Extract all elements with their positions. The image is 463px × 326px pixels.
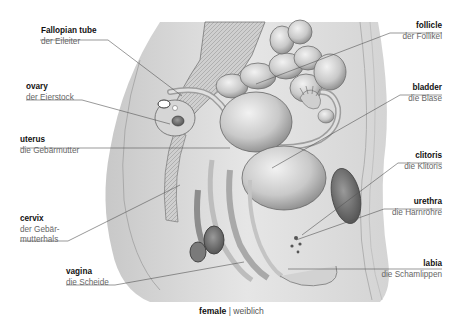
- label-bladder-en: bladder: [408, 83, 442, 94]
- figure-caption: female | weiblich: [0, 306, 463, 316]
- label-fallopian-tube: Fallopian tube der Eileiter: [41, 26, 97, 47]
- label-clitoris: clitoris die Klitoris: [404, 151, 442, 172]
- label-fallopian-tube-de: der Eileiter: [41, 37, 97, 48]
- uterus: [220, 92, 292, 152]
- label-urethra-de: die Harnröhre: [392, 208, 442, 219]
- label-cervix-de-line1: der Gebär-: [20, 225, 60, 236]
- label-bladder: bladder die Blase: [408, 83, 442, 104]
- label-cervix-en: cervix: [20, 214, 60, 225]
- label-urethra-en: urethra: [392, 197, 442, 208]
- label-follicle-de: der Follikel: [402, 32, 442, 43]
- label-vagina: vagina die Scheide: [66, 267, 109, 288]
- label-ovary-de: der Eierstock: [26, 93, 74, 104]
- label-follicle-en: follicle: [402, 21, 442, 32]
- label-vagina-en: vagina: [66, 267, 109, 278]
- bladder: [242, 146, 326, 210]
- label-ovary: ovary der Eierstock: [26, 82, 74, 103]
- label-vagina-de: die Scheide: [66, 278, 109, 289]
- label-bladder-de: die Blase: [408, 94, 442, 105]
- label-cervix: cervix der Gebär- mutterhals: [20, 214, 60, 246]
- label-clitoris-de: die Klitoris: [404, 162, 442, 173]
- label-labia-en: labia: [381, 259, 442, 270]
- caption-de: weiblich: [233, 306, 264, 316]
- ovary-region: [155, 100, 195, 136]
- label-uterus: uterus die Gebärmutter: [20, 135, 79, 156]
- label-fallopian-tube-en: Fallopian tube: [41, 26, 97, 37]
- label-cervix-de-line2: mutterhals: [20, 235, 60, 246]
- label-clitoris-en: clitoris: [404, 151, 442, 162]
- label-labia: labia die Schamlippen: [381, 259, 442, 280]
- label-ovary-en: ovary: [26, 82, 74, 93]
- caption-en: female: [199, 306, 226, 316]
- label-uterus-en: uterus: [20, 135, 79, 146]
- label-labia-de: die Schamlippen: [381, 270, 442, 281]
- label-uterus-de: die Gebärmutter: [20, 146, 79, 157]
- label-follicle: follicle der Follikel: [402, 21, 442, 42]
- label-urethra: urethra die Harnröhre: [392, 197, 442, 218]
